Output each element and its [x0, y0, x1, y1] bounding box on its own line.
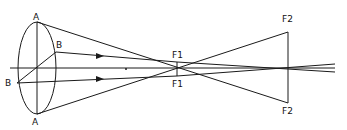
arrow-icon: [96, 76, 104, 82]
label-f2-top: F2: [282, 14, 293, 24]
ray-a-bottom: [37, 32, 288, 114]
label-b-top: B: [56, 40, 62, 50]
label-f1-bottom: F1: [172, 79, 183, 89]
label-b-bottom: B: [5, 78, 11, 88]
arrow-icon: [96, 53, 104, 59]
dot-marker: [125, 68, 127, 70]
label-f1-top: F1: [172, 50, 183, 60]
label-f2-bottom: F2: [282, 106, 293, 116]
label-a-top: A: [33, 12, 40, 22]
ray-b-top-1: [56, 52, 177, 62]
optics-diagram: A A B B F1 F1 F2 F2: [0, 0, 347, 130]
label-a-bottom: A: [32, 117, 39, 127]
ray-a-top: [37, 22, 288, 103]
